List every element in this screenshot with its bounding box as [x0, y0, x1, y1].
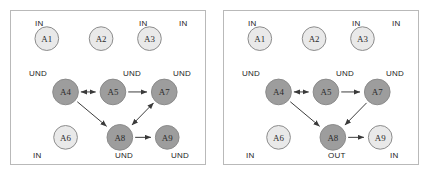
graph-node-A7[interactable]: A7: [151, 79, 177, 105]
graph-canvas-left: A1A2A3A4A5A7A6A8A9: [11, 11, 205, 164]
graph-node-A8[interactable]: A8: [107, 125, 133, 151]
edge-A4-A8: [77, 102, 106, 127]
graph-node-A4[interactable]: A4: [266, 79, 292, 105]
state-label-und: UND: [29, 69, 47, 78]
state-label-in: IN: [352, 19, 360, 28]
state-label-und: UND: [123, 69, 141, 78]
graph-node-A1[interactable]: A1: [35, 27, 59, 51]
graph-node-A6[interactable]: A6: [54, 126, 78, 150]
graph-node-A5[interactable]: A5: [100, 79, 126, 105]
graph-node-A4[interactable]: A4: [53, 79, 79, 105]
graph-node-label: A1: [254, 34, 265, 44]
graph-node-label: A5: [321, 87, 332, 97]
graph-node-label: A6: [60, 133, 71, 143]
graph-canvas-right: A1A2A3A4A5A7A6A8A9: [224, 11, 418, 164]
graph-node-label: A8: [114, 133, 125, 143]
graph-node-label: A2: [96, 34, 107, 44]
graph-panel-right: A1A2A3A4A5A7A6A8A9 INININUNDUNDUNDINOUTI…: [223, 10, 419, 165]
graph-node-label: A3: [357, 34, 368, 44]
state-label-und: UND: [242, 69, 260, 78]
graph-node-label: A7: [159, 87, 170, 97]
graph-node-A5[interactable]: A5: [313, 79, 339, 105]
graph-node-label: A8: [327, 133, 338, 143]
graph-node-label: A1: [41, 34, 52, 44]
figure-root: A1A2A3A4A5A7A6A8A9 INININUNDUNDUNDINUNDU…: [0, 0, 432, 175]
graph-node-A2[interactable]: A2: [302, 27, 326, 51]
graph-node-label: A9: [375, 133, 386, 143]
state-label-und: UND: [173, 69, 191, 78]
state-label-in: IN: [35, 19, 43, 28]
graph-node-label: A4: [273, 87, 284, 97]
edge-A7-A8: [345, 103, 367, 125]
state-label-in: IN: [392, 19, 400, 28]
graph-node-A9[interactable]: A9: [155, 126, 179, 150]
graph-node-A8[interactable]: A8: [320, 125, 346, 151]
graph-node-A1[interactable]: A1: [248, 27, 272, 51]
graph-panel-left: A1A2A3A4A5A7A6A8A9 INININUNDUNDUNDINUNDU…: [10, 10, 206, 165]
graph-node-label: A2: [309, 34, 320, 44]
graph-node-label: A7: [372, 87, 383, 97]
state-label-und: UND: [171, 151, 189, 160]
graph-node-A3[interactable]: A3: [138, 27, 162, 51]
state-label-in: IN: [179, 19, 187, 28]
graph-node-A3[interactable]: A3: [351, 27, 375, 51]
state-label-und: UND: [386, 69, 404, 78]
state-label-in: IN: [33, 151, 41, 160]
state-label-in: IN: [139, 19, 147, 28]
graph-node-label: A4: [60, 87, 71, 97]
edge-A4-A8: [290, 102, 319, 127]
graph-node-A6[interactable]: A6: [267, 126, 291, 150]
state-label-in: IN: [248, 19, 256, 28]
state-label-out: OUT: [328, 151, 346, 160]
graph-node-label: A6: [273, 133, 284, 143]
state-label-und: UND: [115, 151, 133, 160]
edge-A7-A8: [132, 103, 154, 125]
graph-node-A7[interactable]: A7: [364, 79, 390, 105]
state-label-und: UND: [336, 69, 354, 78]
graph-node-label: A9: [162, 133, 173, 143]
graph-node-label: A5: [108, 87, 119, 97]
state-label-in: IN: [246, 151, 254, 160]
graph-node-A9[interactable]: A9: [368, 126, 392, 150]
state-label-in: IN: [390, 151, 398, 160]
graph-node-label: A3: [144, 34, 155, 44]
graph-node-A2[interactable]: A2: [89, 27, 113, 51]
